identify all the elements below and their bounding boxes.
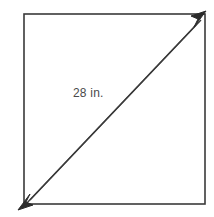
diagonal-line-lower — [25, 25, 196, 205]
geometry-figure: 28 in. — [0, 0, 214, 217]
square-outline — [24, 14, 205, 204]
diagonal-length-label: 28 in. — [73, 86, 104, 100]
figure-canvas — [0, 0, 214, 217]
arrowhead-bottom-left-icon — [18, 194, 33, 210]
